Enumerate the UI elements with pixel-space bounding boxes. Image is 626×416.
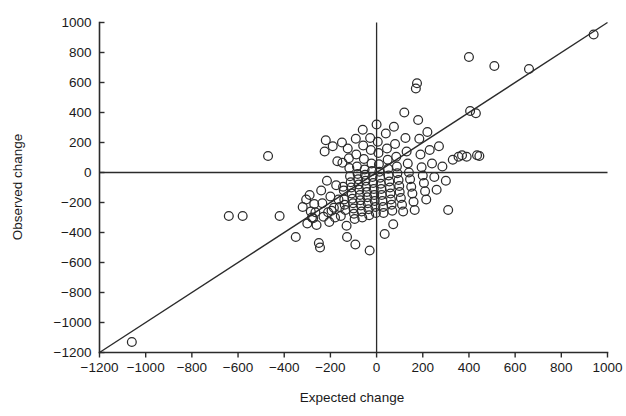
data-point [465, 53, 474, 62]
data-point [525, 65, 534, 74]
data-point [425, 146, 434, 155]
data-point [383, 155, 392, 164]
data-point [328, 142, 337, 151]
y-tick-label: −1200 [54, 345, 92, 360]
data-point [413, 79, 422, 88]
x-tick-label: −800 [177, 360, 207, 375]
data-point [373, 137, 382, 146]
data-point [395, 188, 404, 197]
y-tick-label: −800 [61, 285, 91, 300]
y-tick-labels-group: −1200−1000−800−600−400−20002004006008001… [54, 15, 92, 360]
data-point [490, 62, 499, 71]
y-axis-label: Observed change [10, 134, 25, 241]
x-tick-label: 800 [550, 360, 573, 375]
data-point [323, 176, 332, 185]
data-point [365, 246, 374, 255]
data-point [343, 233, 352, 242]
data-point [312, 221, 321, 230]
data-point [343, 144, 352, 153]
data-point [421, 187, 430, 196]
data-point [336, 212, 345, 221]
x-axis-label: Expected change [300, 390, 404, 405]
y-tick-label: 400 [69, 105, 92, 120]
x-tick-label: −1000 [127, 360, 165, 375]
data-point [320, 147, 329, 156]
data-point [325, 218, 334, 227]
y-tick-label: 200 [69, 135, 92, 150]
x-tick-label: 1000 [592, 360, 622, 375]
data-point [383, 144, 392, 153]
data-point [275, 212, 284, 221]
data-point [415, 134, 424, 143]
data-point [127, 338, 136, 347]
x-tick-label: 400 [458, 360, 481, 375]
plot-canvas: −1200−1000−800−600−400−20002004006008001… [0, 0, 626, 416]
y-tick-label: 600 [69, 75, 92, 90]
data-point [351, 134, 360, 143]
data-point [303, 219, 312, 228]
data-point [391, 140, 400, 149]
x-tick-label: 600 [504, 360, 527, 375]
data-point [331, 213, 340, 222]
x-tick-label: 200 [412, 360, 435, 375]
data-point [380, 230, 389, 239]
data-point [388, 206, 397, 215]
data-point [317, 186, 326, 195]
y-tick-label: 1000 [61, 15, 91, 30]
data-point [358, 125, 367, 134]
data-point [471, 109, 480, 118]
x-tick-labels-group: −1200−1000−800−600−400−20002004006008001… [81, 360, 623, 375]
data-point [374, 149, 383, 158]
data-point [416, 150, 425, 159]
data-point [428, 159, 437, 168]
data-point [430, 173, 439, 182]
data-point [438, 162, 447, 171]
data-point [318, 199, 327, 208]
data-point [389, 220, 398, 229]
y-tick-label: −200 [61, 195, 91, 210]
data-point [441, 176, 450, 185]
x-tick-label: −400 [269, 360, 299, 375]
y-tick-label: −1000 [54, 315, 92, 330]
y-tick-label: 800 [69, 45, 92, 60]
data-point [238, 212, 247, 221]
y-tick-label: −400 [61, 225, 91, 240]
data-point [435, 142, 444, 151]
scatter-plot-figure: −1200−1000−800−600−400−20002004006008001… [0, 0, 626, 416]
data-point [414, 116, 423, 125]
data-point [401, 134, 410, 143]
data-point [291, 233, 300, 242]
x-tick-label: −1200 [81, 360, 119, 375]
data-point [351, 240, 360, 249]
data-point [264, 152, 273, 161]
data-point [444, 206, 453, 215]
data-point [342, 221, 351, 230]
x-tick-label: 0 [373, 360, 381, 375]
data-point [224, 212, 233, 221]
data-point [381, 129, 390, 138]
data-point [409, 197, 418, 206]
y-tick-label: 0 [84, 165, 92, 180]
x-tick-label: −600 [223, 360, 253, 375]
data-point [403, 159, 412, 168]
data-point [432, 185, 441, 194]
data-point [410, 206, 419, 215]
data-points-group [127, 30, 598, 346]
data-point [417, 163, 426, 172]
data-point [423, 128, 432, 137]
x-tick-label: −200 [315, 360, 345, 375]
data-point [390, 122, 399, 131]
data-point [400, 108, 409, 117]
y-tick-label: −600 [61, 255, 91, 270]
data-point [310, 200, 319, 209]
data-point [422, 195, 431, 204]
